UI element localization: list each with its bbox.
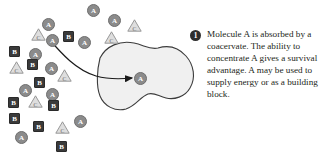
molecule-letter: A: [50, 92, 55, 99]
molecule-letter: A: [50, 38, 55, 45]
molecule-letter: C: [14, 67, 18, 73]
molecule-letter: A: [49, 66, 54, 73]
molecule-letter: B: [66, 34, 71, 41]
molecule-b-square: B: [8, 97, 19, 108]
molecule-letter: C: [132, 25, 136, 31]
molecule-letter: C: [33, 101, 37, 107]
molecule-letter: B: [36, 124, 41, 131]
caption-text: Molecule A is absorbed by a coacervate. …: [207, 28, 326, 101]
molecule-b-square: B: [56, 141, 67, 152]
molecule-letter: B: [11, 100, 16, 107]
molecule-c-triangle: C: [55, 121, 70, 134]
molecule-letter: A: [112, 18, 117, 25]
molecule-b-square: B: [9, 113, 20, 124]
molecule-c-triangle: C: [104, 31, 119, 44]
molecule-c-triangle: C: [28, 95, 43, 108]
molecule-b-square: B: [48, 100, 59, 111]
molecule-letter: B: [12, 116, 17, 123]
molecule-letter: A: [33, 52, 38, 59]
molecule-letter: B: [37, 80, 42, 87]
molecule-a-circle: A: [74, 115, 87, 128]
molecule-c-triangle: C: [31, 28, 46, 41]
molecule-letter: A: [19, 135, 24, 142]
molecule-letter: B: [30, 62, 35, 69]
caption-block: 1 Molecule A is absorbed by a coacervate…: [190, 28, 326, 101]
molecule-letter: A: [82, 40, 87, 47]
coacervate-absorption-figure: A AAACCABACBACBACBAABCBBBCAAB 1 Molecule…: [0, 0, 329, 159]
molecule-letter: B: [59, 144, 64, 151]
molecule-letter: A: [46, 22, 51, 29]
molecule-letter: A: [78, 119, 83, 126]
molecule-c-triangle: C: [9, 61, 24, 74]
molecule-b-square: B: [34, 77, 45, 88]
molecule-b-square: B: [27, 59, 38, 70]
molecule-a-circle: A: [78, 36, 91, 49]
molecule-letter: C: [109, 37, 113, 43]
step-number-badge: 1: [190, 30, 201, 41]
molecule-c-triangle: C: [57, 69, 72, 82]
molecule-c-triangle: C: [127, 19, 142, 32]
molecule-letter: A: [23, 88, 28, 95]
molecule-letter: B: [51, 103, 56, 110]
molecule-b-square: B: [9, 46, 20, 57]
molecule-letter: C: [36, 34, 40, 40]
molecule-b-square: B: [63, 31, 74, 42]
molecule-a-circle: A: [108, 14, 121, 27]
molecule-b-square: B: [33, 121, 44, 132]
molecule-letter: C: [62, 75, 66, 81]
molecule-a-circle: A: [87, 4, 100, 17]
molecule-letter: C: [60, 127, 64, 133]
molecule-letter: B: [12, 49, 17, 56]
molecule-a-circle: A: [15, 131, 28, 144]
molecule-letter: A: [91, 8, 96, 15]
molecule-a-circle: A: [46, 34, 59, 47]
